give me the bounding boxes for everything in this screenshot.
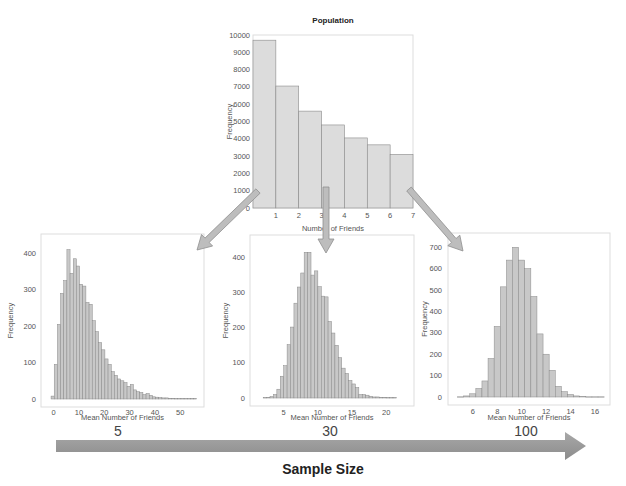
y-tick-label: 0 <box>438 393 442 402</box>
histogram-bar <box>513 247 519 397</box>
histogram-bar <box>267 397 270 398</box>
x-tick-label: 20 <box>382 408 390 417</box>
histogram-bar <box>121 381 124 399</box>
y-axis-label: Frequency <box>221 303 230 339</box>
y-tick-label: 4000 <box>233 134 250 143</box>
histogram-bar <box>344 138 367 208</box>
y-tick-label: 500 <box>429 286 442 295</box>
x-tick-label: 4 <box>342 211 346 220</box>
y-tick-label: 300 <box>232 288 245 297</box>
x-tick-label: 16 <box>591 407 599 416</box>
histogram-bar <box>73 259 76 399</box>
histogram-bar <box>352 384 355 398</box>
histogram-bar <box>95 332 98 399</box>
histogram-bar <box>297 287 300 398</box>
histogram-bar <box>159 398 162 399</box>
sample-size-5-label: 5 <box>114 423 122 439</box>
sample100-histogram: 01002003004005006007006810121416Mean Num… <box>420 233 610 422</box>
histogram-bar <box>70 273 73 399</box>
x-tick-label: 0 <box>52 408 56 417</box>
histogram-bar <box>108 364 111 399</box>
sample-size-100-label: 100 <box>514 423 537 439</box>
histogram-bar <box>335 345 338 398</box>
histogram-bar <box>376 397 379 398</box>
histogram-bar <box>99 343 102 399</box>
histogram-bar <box>549 370 555 397</box>
y-tick-label: 7000 <box>233 82 250 91</box>
x-tick-label: 6 <box>471 407 475 416</box>
y-tick-label: 8000 <box>233 65 250 74</box>
histogram-bar <box>362 394 365 398</box>
histogram-bar <box>61 293 64 399</box>
y-tick-label: 700 <box>429 243 442 252</box>
y-tick-label: 100 <box>23 358 36 367</box>
histogram-bar <box>390 154 413 208</box>
histogram-bar <box>294 303 297 398</box>
clt-figure: 0100020003000400050006000700080009000100… <box>0 0 626 486</box>
histogram-bar <box>332 333 335 398</box>
histogram-bar <box>149 395 152 399</box>
x-tick-label: 5 <box>282 408 286 417</box>
y-tick-label: 6000 <box>233 100 250 109</box>
histogram-bar <box>140 392 143 399</box>
histogram-bar <box>165 398 168 399</box>
histogram-bar <box>152 397 155 399</box>
histogram-bar <box>270 397 273 398</box>
histogram-bar <box>321 296 324 398</box>
histogram-bar <box>318 287 321 398</box>
y-tick-label: 9000 <box>233 48 250 57</box>
histogram-bar <box>500 287 506 397</box>
histogram-bar <box>127 386 130 399</box>
histogram-bar <box>372 397 375 398</box>
y-tick-label: 5000 <box>233 117 250 126</box>
histogram-bar <box>92 321 95 399</box>
histogram-bar <box>114 375 117 399</box>
arrow-to-sample100-icon <box>407 187 463 251</box>
x-tick-label: 6 <box>388 211 392 220</box>
histogram-bar <box>156 397 159 399</box>
histogram-bar <box>64 281 67 399</box>
y-axis-label: Frequency <box>225 104 234 140</box>
x-tick-label: 1 <box>274 211 278 220</box>
histogram-bar <box>102 350 105 399</box>
x-axis-label: Mean Number of Friends <box>291 413 374 422</box>
histogram-bar <box>291 327 294 398</box>
histogram-bar <box>314 271 317 398</box>
y-tick-label: 200 <box>429 350 442 359</box>
y-axis-label: Frequency <box>6 303 15 339</box>
histogram-bar <box>369 396 372 398</box>
histogram-bar <box>383 397 386 398</box>
x-axis-label: Mean Number of Friends <box>488 413 571 422</box>
histogram-bar <box>168 398 171 399</box>
histogram-bar <box>555 386 561 397</box>
histogram-bar <box>470 394 476 397</box>
y-tick-label: 3000 <box>233 152 250 161</box>
sample5-histogram: 010020030040001020304050Mean Number of F… <box>6 234 204 422</box>
histogram-bar <box>277 389 280 398</box>
histogram-bar <box>494 326 500 397</box>
histogram-bar <box>76 266 79 399</box>
histogram-bar <box>464 396 470 397</box>
histogram-bar <box>143 395 146 399</box>
histogram-bar <box>561 392 567 397</box>
histogram-bar <box>342 368 345 398</box>
histogram-bar <box>359 394 362 398</box>
histogram-bar <box>105 359 108 399</box>
y-tick-label: 0 <box>32 395 36 404</box>
histogram-bar <box>54 364 57 399</box>
histogram-bar <box>525 269 531 397</box>
big-arrow-shape <box>56 432 586 460</box>
y-axis-label: Frequency <box>420 301 429 337</box>
y-tick-label: 200 <box>232 323 245 332</box>
histogram-bar <box>488 359 494 398</box>
histogram-bar <box>284 366 287 398</box>
y-tick-label: 10000 <box>229 31 250 40</box>
y-tick-label: 1000 <box>233 186 250 195</box>
histogram-bar <box>137 392 140 399</box>
histogram-bar <box>301 273 304 398</box>
x-axis-label: Mean Number of Friends <box>81 413 164 422</box>
histogram-bar <box>537 334 543 397</box>
histogram-bar <box>345 373 348 398</box>
histogram-bar <box>86 302 89 399</box>
x-tick-label: 50 <box>176 408 184 417</box>
